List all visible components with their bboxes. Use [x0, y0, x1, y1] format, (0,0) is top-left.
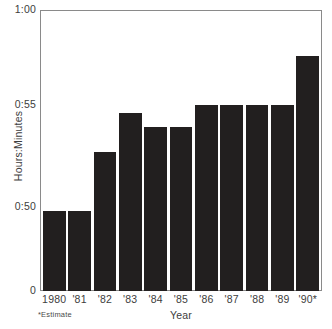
bar-chart: 1:00 0:55 0:50 0 Hours:Minutes 1980'81'8…: [0, 0, 332, 329]
x-axis-tick-label: '88: [244, 293, 270, 305]
x-axis-tick-label: '89: [269, 293, 295, 305]
bar: [43, 211, 66, 291]
y-axis-tick-label: 0: [4, 284, 36, 296]
x-axis-tick-label: '85: [168, 293, 194, 305]
bar: [170, 127, 193, 291]
bar: [220, 105, 243, 291]
bar: [246, 105, 269, 291]
bar: [68, 211, 91, 291]
bar: [271, 105, 294, 291]
x-axis-tick-label: '83: [117, 293, 143, 305]
bar: [119, 113, 142, 291]
x-axis-tick-label: '84: [143, 293, 169, 305]
x-axis-tick-label: '87: [219, 293, 245, 305]
x-axis-tick-label: 1980: [41, 293, 67, 305]
y-axis-title: Hours:Minutes: [12, 81, 24, 211]
x-axis-tick-label: '81: [67, 293, 93, 305]
x-axis-title: Year: [42, 309, 321, 321]
bar-series: [42, 12, 321, 292]
y-axis-tick-label: 1:00: [4, 3, 36, 15]
bar: [94, 152, 117, 291]
x-axis-tick-label: '82: [92, 293, 118, 305]
x-axis-tick-label: '90*: [295, 293, 321, 305]
x-axis-tick-labels: 1980'81'82'83'84'85'86'87'88'89'90*: [42, 293, 321, 309]
bar: [296, 56, 319, 291]
bar: [144, 127, 167, 291]
bar: [195, 105, 218, 291]
x-axis-tick-label: '86: [193, 293, 219, 305]
